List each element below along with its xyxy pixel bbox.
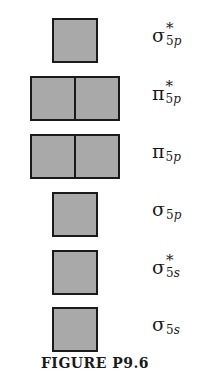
shell-number: 5 [166, 92, 174, 106]
figure-caption: FIGURE P9.6 [0, 355, 190, 371]
orbital-box [30, 134, 76, 179]
orbital-symbol: π [152, 82, 165, 104]
orbital-label: π5p [152, 142, 183, 162]
subshell-letter: p [174, 34, 182, 48]
orbital-box [52, 18, 98, 63]
orbital-symbol: σ [152, 24, 165, 46]
orbital-symbol: π [152, 140, 165, 162]
subshell-letter: p [174, 208, 182, 222]
subshell-letter: s [174, 266, 180, 280]
orbital-symbol: σ [152, 313, 165, 335]
orbital-boxes [52, 307, 98, 352]
subshell-letter: p [173, 92, 181, 106]
orbital-label: σ5s [152, 315, 183, 335]
level-pi-5p: π5p [0, 134, 201, 179]
orbital-boxes [52, 250, 98, 295]
orbital-box [52, 192, 98, 237]
orbital-symbol: σ [152, 198, 165, 220]
subshell-letter: p [173, 150, 181, 164]
shell-number: 5 [166, 266, 174, 280]
subshell-letter: s [174, 323, 180, 337]
level-sigma-5p: σ5p [0, 192, 201, 237]
level-sigma-star-5p: σ*5p [0, 18, 201, 63]
orbital-boxes [52, 192, 98, 237]
level-sigma-5s: σ5s [0, 307, 201, 352]
orbital-boxes [52, 18, 98, 63]
shell-number: 5 [166, 34, 174, 48]
orbital-box [76, 76, 120, 121]
orbital-box [76, 134, 120, 179]
orbital-label: σ5p [152, 200, 183, 220]
orbital-label: σ*5p [152, 26, 183, 46]
orbital-label: π*5p [152, 84, 183, 104]
shell-number: 5 [166, 208, 174, 222]
orbital-box [52, 250, 98, 295]
orbital-boxes [30, 134, 120, 179]
orbital-box [30, 76, 76, 121]
shell-number: 5 [166, 150, 174, 164]
level-pi-star-5p: π*5p [0, 76, 201, 121]
orbital-symbol: σ [152, 256, 165, 278]
orbital-box [52, 307, 98, 352]
level-sigma-star-5s: σ*5s [0, 250, 201, 295]
shell-number: 5 [166, 323, 174, 337]
orbital-boxes [30, 76, 120, 121]
orbital-label: σ*5s [152, 258, 183, 278]
